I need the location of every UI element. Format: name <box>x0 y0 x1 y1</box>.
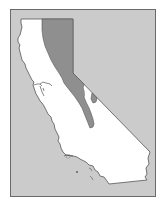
california-map <box>0 0 162 210</box>
island-1 <box>66 156 70 158</box>
island-2 <box>76 171 78 173</box>
